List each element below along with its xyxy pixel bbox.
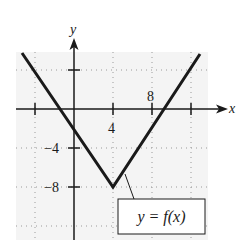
y-tick-label-neg8: −8 [44,180,59,195]
function-label: y = f(x) [135,208,185,226]
y-axis-label: y [68,22,77,37]
y-tick-label-neg4: −4 [44,141,59,156]
function-graph: y x 4 8 −4 −8 y = f(x) [0,0,237,240]
x-axis-label: x [228,101,236,116]
x-tick-label-8: 8 [147,89,154,104]
x-tick-label-4: 4 [108,121,115,136]
